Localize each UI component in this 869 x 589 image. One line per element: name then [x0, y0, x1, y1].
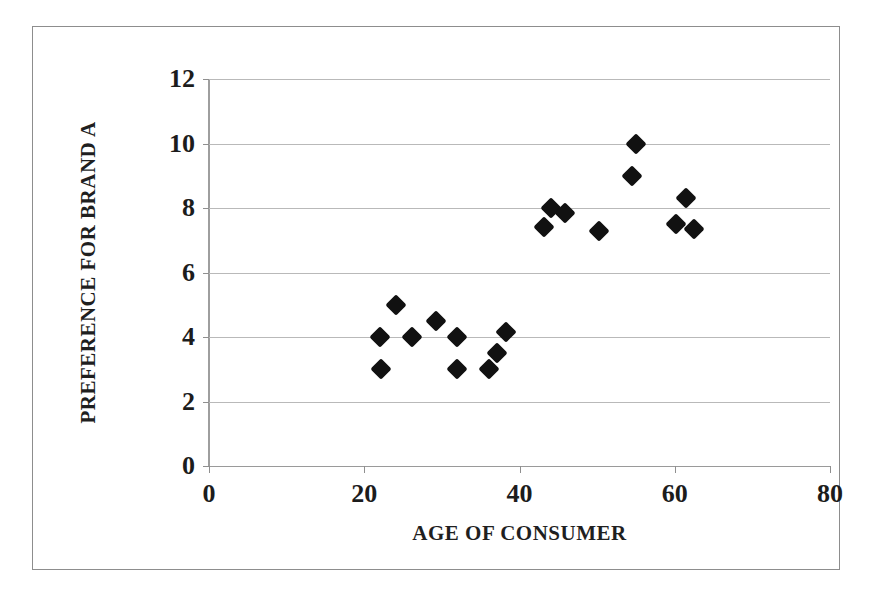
y-tick-label: 8 [182, 193, 195, 223]
data-point [401, 326, 422, 347]
x-axis-title: AGE OF CONSUMER [209, 521, 830, 546]
y-tick-label: 10 [169, 129, 195, 159]
data-point [675, 188, 696, 209]
data-point [385, 294, 406, 315]
data-point [370, 359, 391, 380]
y-tick-mark-12 [203, 79, 209, 80]
data-point [621, 165, 642, 186]
data-point [425, 310, 446, 331]
x-tick-label: 0 [203, 479, 216, 509]
x-tick-mark-20 [364, 466, 365, 473]
y-tick-mark-4 [203, 337, 209, 338]
y-tick-mark-10 [203, 144, 209, 145]
y-tick-mark-8 [203, 208, 209, 209]
data-point [446, 326, 467, 347]
data-point [446, 359, 467, 380]
x-tick-label: 20 [351, 479, 377, 509]
gridline-y-2 [209, 402, 830, 403]
data-point [665, 214, 686, 235]
x-tick-label: 40 [507, 479, 533, 509]
data-point [495, 322, 516, 343]
gridline-y-10 [209, 144, 830, 145]
x-tick-mark-80 [830, 466, 831, 473]
x-tick-mark-60 [675, 466, 676, 473]
data-point [684, 218, 705, 239]
data-point [533, 217, 554, 238]
y-tick-label-group: 024681012 [133, 79, 195, 466]
y-tick-label: 12 [169, 64, 195, 94]
x-tick-label-group: 020406080 [209, 479, 830, 513]
y-tick-mark-6 [203, 273, 209, 274]
data-point [369, 326, 390, 347]
gridline-y-4 [209, 337, 830, 338]
y-axis-title: PREFERENCE FOR BRAND A [71, 79, 105, 466]
y-axis-title-text: PREFERENCE FOR BRAND A [76, 121, 101, 423]
x-tick-mark-0 [209, 466, 210, 473]
data-point [625, 133, 646, 154]
y-tick-label: 4 [182, 322, 195, 352]
scatter-plot-figure: PREFERENCE FOR BRAND A 024681012 0204060… [0, 0, 869, 589]
y-tick-label: 6 [182, 258, 195, 288]
data-point [588, 220, 609, 241]
gridline-y-8 [209, 208, 830, 209]
y-tick-label: 0 [182, 451, 195, 481]
gridline-y-12 [209, 79, 830, 80]
x-tick-label: 80 [817, 479, 843, 509]
chart-frame: PREFERENCE FOR BRAND A 024681012 0204060… [32, 26, 840, 570]
gridline-y-6 [209, 273, 830, 274]
y-tick-label: 2 [182, 387, 195, 417]
plot-area [209, 79, 830, 466]
x-tick-mark-40 [520, 466, 521, 473]
x-tick-label: 60 [662, 479, 688, 509]
y-tick-mark-2 [203, 402, 209, 403]
